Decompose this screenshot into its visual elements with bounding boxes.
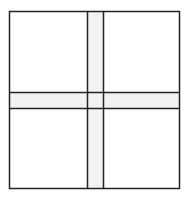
horizontal-band: [10, 93, 180, 109]
cross-grid-diagram: [0, 0, 190, 198]
